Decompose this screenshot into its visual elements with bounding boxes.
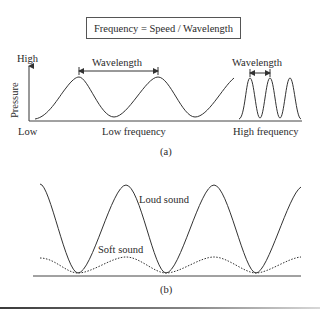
high-frequency-wave [239,78,301,119]
high-frequency-label: High frequency [233,127,299,138]
soft-sound-label: Soft sound [98,245,143,256]
wavelength-label-high: Wavelength [232,58,282,69]
y-axis-low-label: Low [18,127,37,138]
wavelength-label-low: Wavelength [92,58,142,69]
loud-sound-label: Loud sound [139,195,189,206]
caption-b: (b) [160,285,172,296]
y-axis-title: Pressure [10,82,21,118]
caption-a: (a) [160,147,172,158]
low-frequency-wave [35,77,234,119]
y-axis-high-label: High [17,54,38,65]
panel-a [29,66,302,121]
low-frequency-label: Low frequency [102,127,166,138]
